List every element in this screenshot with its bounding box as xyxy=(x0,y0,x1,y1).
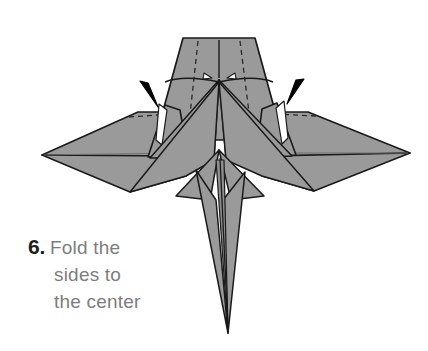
right-fold-arrow-head-icon xyxy=(287,79,304,104)
left-fold-arrow-head-icon xyxy=(140,81,158,107)
caption-line-3: the center xyxy=(28,289,208,316)
caption-line-1: 6.Fold the xyxy=(28,232,208,262)
left-fold-arrow xyxy=(140,81,158,107)
caption-line-1-text: Fold the xyxy=(50,237,120,258)
caption-line-2: sides to xyxy=(28,262,208,289)
right-fold-arrow xyxy=(287,79,304,104)
step-number: 6. xyxy=(28,235,45,258)
step-caption: 6.Fold the sides to the center xyxy=(28,232,208,316)
